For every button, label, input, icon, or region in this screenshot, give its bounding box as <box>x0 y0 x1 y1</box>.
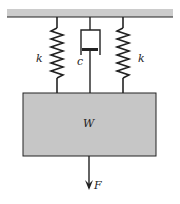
damper-label: c <box>77 56 83 67</box>
damper <box>81 17 100 93</box>
right-spring <box>117 17 129 93</box>
left-spring <box>51 17 63 93</box>
force-arrow <box>85 156 93 190</box>
spring-right-label: k <box>138 53 145 64</box>
diagram-canvas <box>0 0 180 204</box>
force-label: F <box>94 180 102 191</box>
ceiling <box>7 9 173 17</box>
mass-label: W <box>83 118 94 129</box>
spring-left-label: k <box>36 53 43 64</box>
